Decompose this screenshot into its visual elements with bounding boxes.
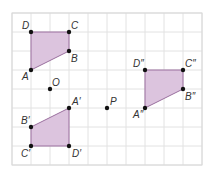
vertex-2-1-label: B″ bbox=[185, 91, 196, 102]
vertex-0-3-point bbox=[29, 30, 33, 34]
vertex-1-1-label: B′ bbox=[21, 115, 31, 126]
vertex-1-2-label: C′ bbox=[21, 148, 31, 159]
vertex-1-3-label: D′ bbox=[72, 148, 82, 159]
vertex-1-3-point bbox=[67, 144, 71, 148]
vertex-1-0-point bbox=[67, 106, 71, 110]
vertex-1-0-label: A′ bbox=[71, 96, 82, 107]
transformation-grid-diagram: ABCDA′B′C′D′A″B″C″D″OP bbox=[0, 0, 208, 174]
vertex-2-3-label: D″ bbox=[133, 58, 144, 69]
vertex-0-0-point bbox=[29, 68, 33, 72]
center-p-point bbox=[105, 106, 109, 110]
vertex-2-0-point bbox=[143, 106, 147, 110]
center-o-label: O bbox=[52, 77, 60, 88]
vertex-0-1-label: B bbox=[71, 53, 78, 64]
vertex-2-2-label: C″ bbox=[185, 58, 196, 69]
center-p-label: P bbox=[110, 96, 117, 107]
vertex-0-0-label: A bbox=[21, 71, 29, 82]
vertex-2-0-label: A″ bbox=[132, 109, 144, 120]
vertex-0-2-label: C bbox=[71, 20, 79, 31]
vertex-0-3-label: D bbox=[22, 20, 29, 31]
